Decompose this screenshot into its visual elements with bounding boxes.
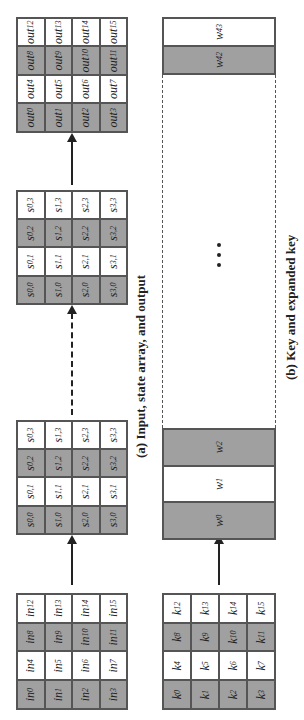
expanded-key-word: w2 [163, 429, 275, 466]
output-cell: out8 [17, 47, 45, 76]
output-cell: out7 [100, 75, 128, 104]
key-cell: k10 [219, 623, 247, 652]
ellipsis [217, 243, 221, 267]
output-cell: out1 [45, 104, 73, 133]
input-cell: in10 [72, 623, 100, 652]
output-cell: out2 [72, 104, 100, 133]
state-cell: s3,0 [100, 276, 128, 304]
state-cell: s3,3 [100, 191, 128, 219]
aes-structures-figure: in0in4in8in12in1in5in9in13in2in6in10in14… [0, 0, 304, 720]
key-cell: k13 [191, 594, 219, 623]
input-cell: in11 [100, 623, 128, 652]
state-cell: s2,2 [72, 449, 100, 477]
state-array-final: s0,0s0,1s0,2s0,3s1,0s1,1s1,2s1,3s2,0s2,1… [16, 190, 128, 305]
output-grid: out0out4out8out12out1out5out9out13out2ou… [16, 17, 128, 133]
key-cell: k4 [163, 652, 191, 681]
state-cell: s3,2 [100, 219, 128, 247]
expanded-key-end: w42w43 [162, 17, 276, 75]
expanded-key-word: w0 [163, 502, 275, 539]
input-cell: in2 [72, 680, 100, 709]
input-cell: in7 [100, 652, 128, 681]
key-cell: k6 [219, 652, 247, 681]
input-cell: in12 [17, 594, 45, 623]
state-cell: s0,3 [17, 421, 45, 449]
input-cell: in1 [45, 680, 73, 709]
caption-b: (b) Key and expanded key [283, 235, 299, 380]
state-cell: s1,3 [45, 191, 73, 219]
state-cell: s2,0 [72, 506, 100, 534]
state-cell: s0,3 [17, 191, 45, 219]
output-cell: out15 [100, 18, 128, 47]
output-cell: out9 [45, 47, 73, 76]
output-cell: out14 [72, 18, 100, 47]
input-grid: in0in4in8in12in1in5in9in13in2in6in10in14… [16, 593, 128, 710]
expanded-key-start: w0w1w2 [162, 428, 276, 540]
input-cell: in8 [17, 623, 45, 652]
state-cell: s2,1 [72, 478, 100, 506]
state-cell: s2,1 [72, 248, 100, 276]
key-cell: k3 [247, 680, 275, 709]
input-cell: in6 [72, 652, 100, 681]
output-cell: out10 [72, 47, 100, 76]
state-array-initial: s0,0s0,1s0,2s0,3s1,0s1,1s1,2s1,3s2,0s2,1… [16, 420, 128, 535]
input-cell: in5 [45, 652, 73, 681]
state-cell: s0,2 [17, 449, 45, 477]
input-cell: in9 [45, 623, 73, 652]
output-cell: out12 [17, 18, 45, 47]
state-cell: s1,0 [45, 506, 73, 534]
key-cell: k1 [191, 680, 219, 709]
state-cell: s2,0 [72, 276, 100, 304]
expanded-key-dashed-top [162, 75, 163, 428]
state-cell: s1,2 [45, 449, 73, 477]
output-cell: out11 [100, 47, 128, 76]
output-cell: out0 [17, 104, 45, 133]
state-cell: s3,3 [100, 421, 128, 449]
state-cell: s3,0 [100, 506, 128, 534]
expanded-key-dashed-bottom [275, 75, 276, 428]
caption-a: (a) Input, state array, and output [133, 275, 149, 458]
input-cell: in14 [72, 594, 100, 623]
output-cell: out5 [45, 75, 73, 104]
state-cell: s0,1 [17, 478, 45, 506]
key-cell: k14 [219, 594, 247, 623]
key-grid: k0k4k8k12k1k5k9k13k2k6k10k14k3k7k11k15 [162, 593, 276, 710]
expanded-key-word: w42 [163, 46, 275, 74]
key-cell: k15 [247, 594, 275, 623]
expanded-key-word: w43 [163, 18, 275, 46]
key-cell: k5 [191, 652, 219, 681]
output-cell: out6 [72, 75, 100, 104]
state-cell: s1,2 [45, 219, 73, 247]
key-cell: k9 [191, 623, 219, 652]
state-cell: s3,1 [100, 248, 128, 276]
output-cell: out13 [45, 18, 73, 47]
state-cell: s0,0 [17, 506, 45, 534]
key-cell: k8 [163, 623, 191, 652]
state-cell: s3,2 [100, 449, 128, 477]
input-cell: in3 [100, 680, 128, 709]
expanded-key-word: w1 [163, 466, 275, 503]
key-cell: k12 [163, 594, 191, 623]
input-cell: in0 [17, 680, 45, 709]
state-cell: s0,0 [17, 276, 45, 304]
state-cell: s1,1 [45, 478, 73, 506]
state-cell: s1,0 [45, 276, 73, 304]
state-cell: s2,2 [72, 219, 100, 247]
input-cell: in15 [100, 594, 128, 623]
state-cell: s2,3 [72, 421, 100, 449]
key-cell: k11 [247, 623, 275, 652]
input-cell: in4 [17, 652, 45, 681]
output-cell: out3 [100, 104, 128, 133]
state-cell: s1,3 [45, 421, 73, 449]
input-cell: in13 [45, 594, 73, 623]
state-cell: s3,1 [100, 478, 128, 506]
key-cell: k0 [163, 680, 191, 709]
key-cell: k2 [219, 680, 247, 709]
state-cell: s0,2 [17, 219, 45, 247]
state-cell: s0,1 [17, 248, 45, 276]
key-cell: k7 [247, 652, 275, 681]
state-cell: s2,3 [72, 191, 100, 219]
state-cell: s1,1 [45, 248, 73, 276]
output-cell: out4 [17, 75, 45, 104]
